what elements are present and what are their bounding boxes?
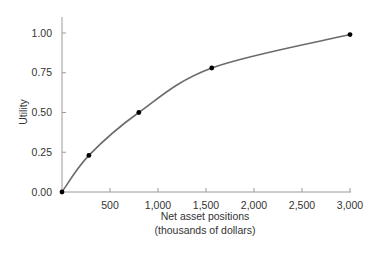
x-tick-label: 500 [101, 199, 119, 211]
y-tick-label: 0.75 [32, 66, 53, 78]
data-points [60, 32, 353, 194]
data-point [348, 32, 353, 37]
data-point [60, 190, 65, 195]
x-tick-label: 2,500 [289, 199, 315, 211]
y-tick-label: 0.50 [32, 106, 53, 118]
x-tick-label: 3,000 [337, 199, 363, 211]
y-tick-label: 1.00 [32, 27, 53, 39]
y-tick-label: 0.00 [32, 186, 53, 198]
x-axis-title-line2: (thousands of dollars) [155, 224, 256, 236]
utility-curve [62, 35, 350, 192]
x-axis-ticks: 5001,0001,5002,0002,5003,000 [101, 188, 363, 211]
y-axis-ticks: 0.000.250.500.751.00 [32, 27, 66, 198]
data-point [209, 66, 214, 71]
data-point [86, 153, 91, 158]
data-point [136, 110, 141, 115]
y-tick-label: 0.25 [32, 146, 53, 158]
x-axis-title-line1: Net asset positions [161, 210, 250, 222]
y-axis-title: Utility [17, 98, 29, 124]
utility-chart: 0.000.250.500.751.00 5001,0001,5002,0002… [0, 0, 385, 253]
